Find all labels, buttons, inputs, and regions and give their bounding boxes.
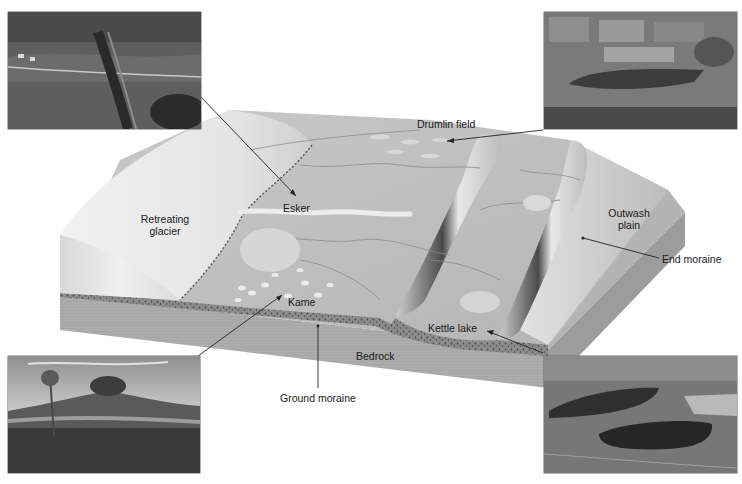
kettle-lake-shape [460, 291, 500, 313]
esker-photo [8, 12, 201, 129]
label-end-moraine: End moraine [662, 253, 722, 265]
glacial-landforms-diagram: Drumlin field Esker Retreating glacier O… [0, 0, 742, 484]
label-esker: Esker [283, 202, 310, 214]
drumlin-photo [544, 12, 737, 129]
label-kettle-lake: Kettle lake [428, 322, 477, 334]
label-outwash-plain: Outwash plain [604, 207, 654, 231]
label-bedrock: Bedrock [356, 350, 395, 362]
label-ground-moraine: Ground moraine [280, 392, 356, 404]
label-retreating-glacier: Retreating glacier [135, 213, 195, 237]
kettle-lake-photo [544, 356, 737, 473]
label-drumlin-field: Drumlin field [417, 118, 475, 130]
label-kame: Kame [288, 296, 315, 308]
label-outwash-plain-line2: plain [604, 219, 654, 231]
label-outwash-plain-line1: Outwash [604, 207, 654, 219]
kame-photo [8, 356, 200, 473]
label-retreating-glacier-line2: glacier [135, 225, 195, 237]
label-retreating-glacier-line1: Retreating [135, 213, 195, 225]
